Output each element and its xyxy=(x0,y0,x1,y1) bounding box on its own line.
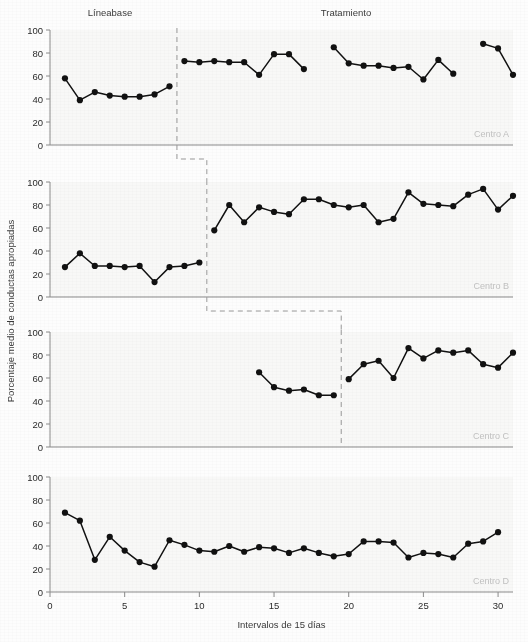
data-point xyxy=(122,264,128,270)
data-point xyxy=(137,559,143,565)
data-point xyxy=(405,64,411,70)
panel-centro-d: 020406080100051015202530Centro D xyxy=(27,472,513,612)
panel-centro-c: 020406080100Centro C xyxy=(27,327,516,453)
data-point xyxy=(450,203,456,209)
y-tick-label: 20 xyxy=(32,269,43,280)
phase-label-1: Tratamiento xyxy=(321,7,371,18)
data-point xyxy=(77,518,83,524)
panel-tag-1: Centro B xyxy=(473,281,509,291)
data-point xyxy=(151,279,157,285)
x-tick-label: 15 xyxy=(269,600,280,611)
panel-tag-3: Centro D xyxy=(473,576,510,586)
data-point xyxy=(450,71,456,77)
data-point xyxy=(405,345,411,351)
data-point xyxy=(241,59,247,65)
x-tick-label: 10 xyxy=(194,600,205,611)
y-tick-label: 100 xyxy=(27,327,43,338)
data-point xyxy=(286,550,292,556)
data-point xyxy=(495,207,501,213)
data-point xyxy=(226,543,232,549)
y-tick-label: 0 xyxy=(38,292,43,303)
data-point xyxy=(256,204,262,210)
data-point xyxy=(286,388,292,394)
data-point xyxy=(495,529,501,535)
y-tick-label: 100 xyxy=(27,177,43,188)
data-point xyxy=(226,202,232,208)
x-axis-title: Intervalos de 15 días xyxy=(237,619,325,630)
data-point xyxy=(92,89,98,95)
data-point xyxy=(122,94,128,100)
y-tick-label: 60 xyxy=(32,223,43,234)
y-tick-label: 60 xyxy=(32,518,43,529)
data-point xyxy=(301,386,307,392)
panel-background xyxy=(50,182,513,297)
data-point xyxy=(361,63,367,69)
data-point xyxy=(137,263,143,269)
y-tick-label: 100 xyxy=(27,25,43,36)
data-point xyxy=(331,392,337,398)
phase-step-connector xyxy=(177,145,207,180)
panel-background xyxy=(50,477,513,592)
data-point xyxy=(166,264,172,270)
y-tick-label: 40 xyxy=(32,94,43,105)
data-point xyxy=(510,72,516,78)
data-point xyxy=(510,193,516,199)
data-point xyxy=(151,91,157,97)
panel-centro-a: 020406080100Centro A xyxy=(27,25,516,181)
data-point xyxy=(241,219,247,225)
data-point xyxy=(435,551,441,557)
y-tick-label: 80 xyxy=(32,200,43,211)
y-tick-label: 80 xyxy=(32,48,43,59)
data-point xyxy=(420,76,426,82)
data-point xyxy=(137,94,143,100)
data-point xyxy=(435,202,441,208)
data-point xyxy=(480,41,486,47)
data-point xyxy=(271,384,277,390)
data-point xyxy=(211,227,217,233)
data-point xyxy=(375,63,381,69)
data-point xyxy=(181,58,187,64)
data-point xyxy=(196,548,202,554)
data-point xyxy=(375,538,381,544)
panel-background xyxy=(50,30,513,145)
data-point xyxy=(495,45,501,51)
data-point xyxy=(122,548,128,554)
data-point xyxy=(375,219,381,225)
y-tick-label: 20 xyxy=(32,564,43,575)
x-tick-label: 30 xyxy=(493,600,504,611)
panel-tag-0: Centro A xyxy=(474,129,509,139)
data-point xyxy=(181,542,187,548)
data-point xyxy=(480,186,486,192)
data-point xyxy=(256,544,262,550)
data-point xyxy=(316,196,322,202)
data-point xyxy=(241,549,247,555)
data-point xyxy=(286,51,292,57)
data-point xyxy=(420,550,426,556)
x-tick-label: 5 xyxy=(122,600,127,611)
data-point xyxy=(510,350,516,356)
data-point xyxy=(107,92,113,98)
y-tick-label: 40 xyxy=(32,541,43,552)
data-point xyxy=(331,202,337,208)
data-point xyxy=(405,189,411,195)
data-point xyxy=(256,369,262,375)
y-tick-label: 0 xyxy=(38,442,43,453)
data-point xyxy=(316,392,322,398)
data-point xyxy=(301,545,307,551)
phase-step-connector xyxy=(207,297,341,330)
x-tick-label: 25 xyxy=(418,600,429,611)
y-tick-label: 0 xyxy=(38,587,43,598)
data-point xyxy=(435,57,441,63)
data-point xyxy=(92,557,98,563)
data-point xyxy=(390,539,396,545)
data-point xyxy=(480,361,486,367)
data-point xyxy=(346,60,352,66)
y-tick-label: 60 xyxy=(32,373,43,384)
data-point xyxy=(271,209,277,215)
y-tick-label: 40 xyxy=(32,396,43,407)
y-tick-label: 80 xyxy=(32,495,43,506)
data-point xyxy=(196,259,202,265)
data-point xyxy=(211,58,217,64)
y-axis-title: Porcentaje medio de conductas apropiadas xyxy=(5,219,16,402)
data-point xyxy=(226,59,232,65)
